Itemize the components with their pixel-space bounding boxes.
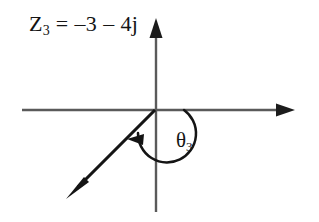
vector-label: Z3 = –3 – 4j [29,11,138,44]
vector-label-subscript: 3 [43,23,50,38]
argand-diagram-figure: Z3 = –3 – 4j θ3 [0,0,319,222]
imaginary-axis-arrowhead-icon [150,18,163,38]
angle-label-subscript: 3 [186,139,193,154]
vector-label-expression: = –3 – 4j [50,11,139,36]
vector-label-base: Z [29,11,43,36]
real-axis-arrowhead-icon [276,104,295,117]
angle-label-symbol: θ [176,128,186,152]
angle-label: θ3 [176,128,193,159]
vector-z3-arrowhead-icon [66,177,89,199]
vector-z3 [66,110,155,199]
real-axis [22,104,295,117]
